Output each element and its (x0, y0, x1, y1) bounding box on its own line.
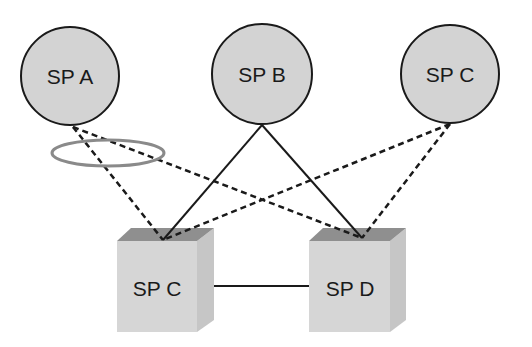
box-sp-c-top (117, 228, 214, 241)
network-diagram: SP C SP D SP A SP B (0, 0, 532, 347)
link-spb-spd-box (262, 125, 362, 238)
link-spc-spd-box (362, 124, 450, 238)
circle-node-sp-a: SP A (21, 27, 119, 125)
node-sp-c-label: SP C (426, 63, 475, 86)
circle-node-sp-b: SP B (212, 24, 312, 124)
link-spb-spc-box (163, 125, 262, 240)
node-sp-b-label: SP B (238, 63, 285, 86)
box-sp-d-label: SP D (326, 277, 375, 300)
box-sp-c-label: SP C (133, 277, 182, 300)
box-node-sp-d: SP D (309, 228, 406, 332)
highlight-ellipse (52, 140, 164, 166)
box-node-sp-c: SP C (117, 228, 214, 332)
box-sp-d-top (309, 228, 406, 241)
circle-node-sp-c: SP C (401, 25, 499, 123)
box-sp-d-side (390, 228, 406, 332)
diagram-svg: SP C SP D SP A SP B (0, 0, 532, 347)
node-sp-a-label: SP A (47, 65, 93, 88)
link-spc-spc-box (163, 124, 450, 240)
box-sp-c-side (197, 228, 214, 332)
